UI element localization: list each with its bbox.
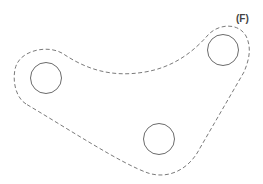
right-hole-circle (208, 35, 239, 66)
bottom-hole-circle (144, 124, 175, 155)
diagram-canvas (0, 0, 263, 184)
dashed-outline (14, 26, 249, 175)
left-hole-circle (31, 63, 62, 94)
figure-label: (F) (236, 14, 249, 24)
